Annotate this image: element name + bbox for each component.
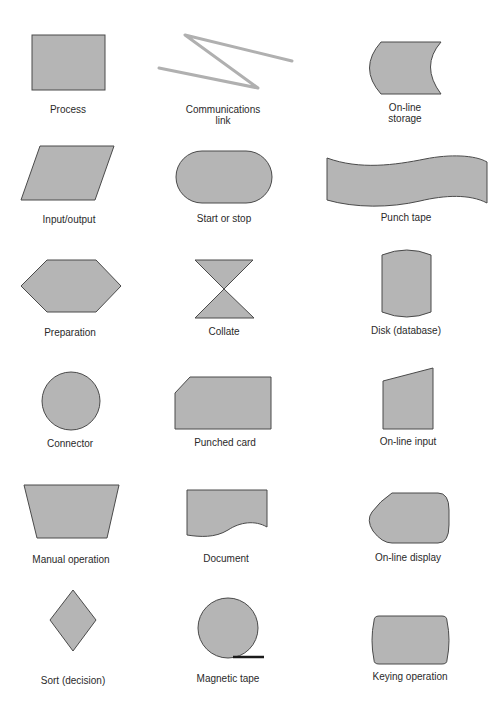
collate-symbol-lower	[195, 289, 254, 318]
disk-label: Disk (database)	[371, 325, 441, 336]
input-output-label: Input/output	[43, 214, 96, 225]
preparation-label: Preparation	[44, 327, 96, 338]
manual-operation-label: Manual operation	[32, 554, 109, 565]
connector-label: Connector	[47, 438, 93, 449]
document-label: Document	[203, 553, 249, 564]
online-storage-symbol	[370, 42, 442, 94]
punched-card-label: Punched card	[194, 437, 256, 448]
process-symbol	[32, 35, 105, 90]
document-symbol	[187, 490, 267, 536]
disk-symbol	[382, 250, 431, 317]
online-storage-label: On-line storage	[388, 102, 421, 124]
connector-symbol	[42, 372, 100, 430]
magnetic-tape-symbol	[198, 598, 258, 658]
keying-operation-symbol	[372, 616, 449, 664]
preparation-symbol	[21, 260, 121, 312]
input-output-symbol	[21, 146, 114, 200]
flowchart-symbols-figure: Process Communications link On-line stor…	[0, 0, 502, 702]
sort-label: Sort (decision)	[41, 675, 105, 686]
start-stop-label: Start or stop	[197, 213, 251, 224]
collate-symbol	[195, 260, 253, 289]
sort-symbol	[50, 590, 96, 651]
online-input-label: On-line input	[380, 436, 437, 447]
online-input-symbol	[383, 368, 433, 429]
magnetic-tape-label: Magnetic tape	[197, 673, 260, 684]
punched-card-symbol	[175, 377, 271, 429]
start-stop-symbol	[176, 151, 272, 203]
punch-tape-symbol	[327, 156, 487, 206]
punch-tape-label: Punch tape	[381, 212, 432, 223]
online-display-label: On-line display	[375, 552, 441, 563]
communications-link-symbol	[159, 35, 292, 88]
process-label: Process	[50, 104, 86, 115]
communications-link-label: Communications link	[186, 104, 260, 126]
keying-operation-label: Keying operation	[372, 671, 447, 682]
collate-label: Collate	[208, 326, 239, 337]
manual-operation-symbol	[24, 485, 119, 538]
online-display-symbol	[369, 493, 449, 543]
